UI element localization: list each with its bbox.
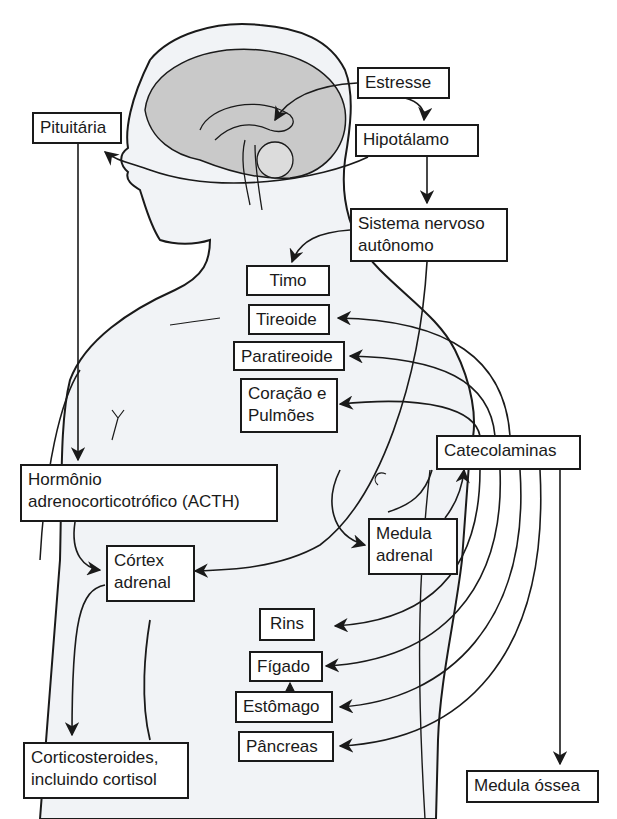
node-acth: Hormônio adrenocorticotrófico (ACTH) <box>20 464 278 522</box>
node-label: Pulmões <box>248 405 330 427</box>
node-estresse: Estresse <box>357 67 450 99</box>
node-hipotalamo: Hipotálamo <box>355 124 479 157</box>
node-label: Paratireoide <box>241 346 337 368</box>
node-medula-ossea: Medula óssea <box>466 770 599 803</box>
node-label: Pituitária <box>40 117 114 139</box>
node-rins: Rins <box>259 608 315 641</box>
node-catecolaminas: Catecolaminas <box>436 435 581 470</box>
node-label: Tireoide <box>256 309 322 331</box>
node-label: Estresse <box>365 72 442 94</box>
node-label: Rins <box>267 613 307 635</box>
node-corticosteroides: Corticosteroides, incluindo cortisol <box>23 742 189 799</box>
node-estomago: Estômago <box>235 691 333 723</box>
node-label: Hipotálamo <box>363 129 471 151</box>
node-label: Córtex <box>114 550 187 572</box>
node-label: Coração e <box>248 383 330 405</box>
node-label: Corticosteroides, <box>31 747 181 769</box>
node-pancreas: Pâncreas <box>238 731 334 762</box>
node-tireoide: Tireoide <box>248 304 330 335</box>
node-label: Sistema nervoso <box>358 213 500 235</box>
node-label: Medula <box>376 523 450 545</box>
node-timo: Timo <box>246 265 330 296</box>
node-label: adrenocorticotrófico (ACTH) <box>28 491 270 513</box>
node-label: adrenal <box>114 572 187 594</box>
stress-response-diagram: Estresse Hipotálamo Pituitária Sistema n… <box>0 0 617 819</box>
node-label: Estômago <box>243 696 325 718</box>
node-label: Catecolaminas <box>444 440 573 462</box>
node-label: Fígado <box>257 656 315 678</box>
node-pituitaria: Pituitária <box>32 112 122 144</box>
node-label: autônomo <box>358 235 500 257</box>
node-label: Timo <box>254 270 322 292</box>
node-label: adrenal <box>376 545 450 567</box>
node-figado: Fígado <box>249 651 323 682</box>
node-cortex-adrenal: Córtex adrenal <box>106 545 195 602</box>
node-paratireoide: Paratireoide <box>233 341 345 371</box>
node-medula-adrenal: Medula adrenal <box>368 518 458 575</box>
node-sistema-nervoso-autonomo: Sistema nervoso autônomo <box>350 208 508 262</box>
node-label: incluindo cortisol <box>31 769 181 791</box>
node-label: Hormônio <box>28 469 270 491</box>
node-coracao-pulmoes: Coração e Pulmões <box>240 378 338 433</box>
node-label: Medula óssea <box>474 775 591 797</box>
node-label: Pâncreas <box>246 736 326 758</box>
